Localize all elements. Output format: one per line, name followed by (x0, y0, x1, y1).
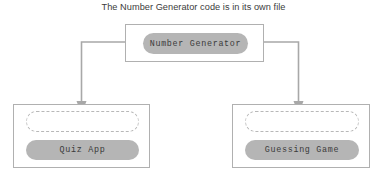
placeholder-slot-quiz-app[interactable] (26, 111, 139, 132)
diagram-title: The Number Generator code is in its own … (0, 2, 387, 12)
pill-quiz-app[interactable]: Quiz App (26, 140, 139, 160)
connector-number-generator-to-guessing-game-line (264, 42, 299, 104)
pill-guessing-game[interactable]: Guessing Game (245, 140, 359, 160)
file-box-guessing-game[interactable]: Guessing Game (232, 104, 370, 168)
file-box-quiz-app[interactable]: Quiz App (13, 104, 150, 168)
diagram-canvas: The Number Generator code is in its own … (0, 0, 387, 183)
connector-number-generator-to-quiz-app-line (82, 42, 126, 104)
pill-number-generator[interactable]: Number Generator (143, 33, 248, 54)
file-box-number-generator[interactable]: Number Generator (125, 24, 264, 62)
placeholder-slot-guessing-game[interactable] (245, 111, 359, 132)
